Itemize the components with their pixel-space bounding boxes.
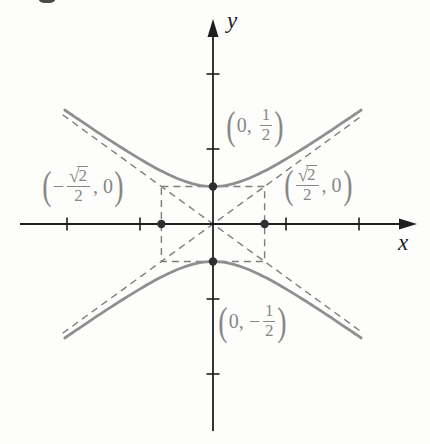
hyperbola-plot [0, 0, 430, 444]
fraction-numerator: 1 [263, 302, 276, 320]
radicand: 2 [306, 165, 317, 184]
radicand: 2 [77, 166, 88, 185]
fraction: 1 2 [263, 302, 276, 341]
fraction: √2 2 [296, 165, 319, 205]
fraction-denominator: 2 [263, 321, 276, 340]
open-paren: ( [218, 304, 227, 339]
minus-sign: − [52, 176, 65, 196]
label-text: 0, − [228, 311, 261, 331]
label-text: , 0 [92, 176, 114, 196]
fraction-numerator: 1 [260, 106, 273, 124]
close-paren: ) [274, 108, 283, 143]
label-text: 0, [236, 115, 258, 135]
fraction-numerator: √2 [67, 166, 90, 185]
label-vertex-top: ( 0, 1 2 ) [226, 106, 284, 145]
fraction: 1 2 [260, 106, 273, 145]
label-covertex-right: ( √2 2 , 0 ) [284, 165, 352, 205]
fraction-numerator: √2 [296, 165, 319, 184]
open-paren: ( [42, 168, 51, 203]
close-paren: ) [278, 304, 287, 339]
hyperbola-figure: y x ( 0, 1 2 ) ( − √2 2 , 0 ) ( √2 2 , 0… [0, 0, 430, 444]
fraction: √2 2 [67, 166, 90, 206]
y-axis-label: y [227, 9, 237, 32]
close-paren: ) [114, 168, 123, 203]
label-covertex-left: ( − √2 2 , 0 ) [42, 166, 124, 206]
open-paren: ( [284, 167, 293, 202]
label-text: , 0 [321, 175, 343, 195]
label-vertex-bottom: ( 0, − 1 2 ) [218, 302, 287, 341]
fraction-denominator: 2 [67, 186, 90, 205]
fraction-denominator: 2 [260, 125, 273, 144]
open-paren: ( [226, 108, 235, 143]
fraction-denominator: 2 [296, 185, 319, 204]
close-paren: ) [343, 167, 352, 202]
x-axis-label: x [398, 231, 408, 254]
